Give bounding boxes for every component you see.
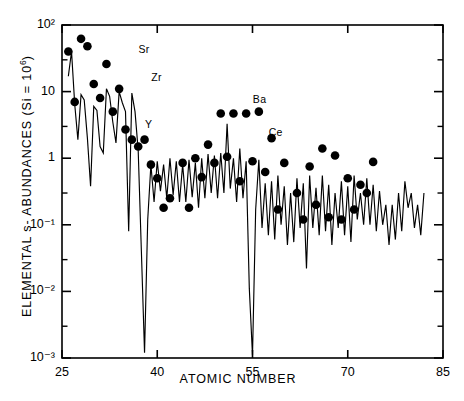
data-point: [159, 204, 168, 213]
data-point: [267, 134, 276, 143]
data-point: [89, 80, 98, 89]
data-point: [337, 215, 346, 224]
data-point: [70, 98, 79, 107]
data-point: [83, 42, 92, 51]
data-point: [299, 215, 308, 224]
data-point: [312, 200, 321, 209]
plot-canvas: [0, 0, 464, 401]
data-point: [178, 159, 187, 168]
data-point: [128, 135, 137, 144]
data-point: [331, 151, 340, 160]
data-point: [261, 168, 270, 177]
data-point: [223, 152, 232, 161]
data-point: [140, 135, 149, 144]
data-point: [134, 142, 143, 151]
s-process-abundance-chart: ELEMENTAL s- ABUNDANCES (Si = 106) ATOMI…: [0, 0, 464, 401]
data-point: [242, 109, 251, 118]
data-point: [109, 107, 118, 116]
data-point: [77, 35, 86, 44]
data-point: [185, 204, 194, 213]
data-point: [356, 180, 365, 189]
data-point: [248, 157, 257, 166]
data-point: [229, 109, 238, 118]
data-point: [96, 94, 105, 103]
data-point: [236, 177, 245, 186]
data-point: [115, 85, 124, 94]
data-point: [369, 158, 378, 167]
data-point: [274, 205, 283, 214]
plot-frame: [62, 25, 443, 358]
data-point: [102, 60, 111, 69]
data-point: [305, 162, 314, 171]
data-point: [210, 159, 219, 168]
data-point: [293, 189, 302, 198]
data-point: [197, 173, 206, 182]
data-point: [216, 109, 225, 118]
data-point: [153, 174, 162, 183]
data-point: [64, 47, 73, 56]
figure-root: ELEMENTAL s- ABUNDANCES (Si = 106) ATOMI…: [0, 0, 464, 401]
data-point: [343, 174, 352, 183]
data-point: [350, 205, 359, 214]
data-point: [324, 213, 333, 222]
data-point: [204, 140, 213, 149]
data-point: [363, 189, 372, 198]
abundance-line: [68, 52, 424, 356]
data-point: [318, 144, 327, 153]
data-point: [280, 159, 289, 168]
data-point: [255, 107, 264, 116]
data-point: [147, 160, 156, 169]
data-point: [166, 194, 175, 203]
data-point: [191, 154, 200, 163]
data-point: [121, 125, 130, 134]
